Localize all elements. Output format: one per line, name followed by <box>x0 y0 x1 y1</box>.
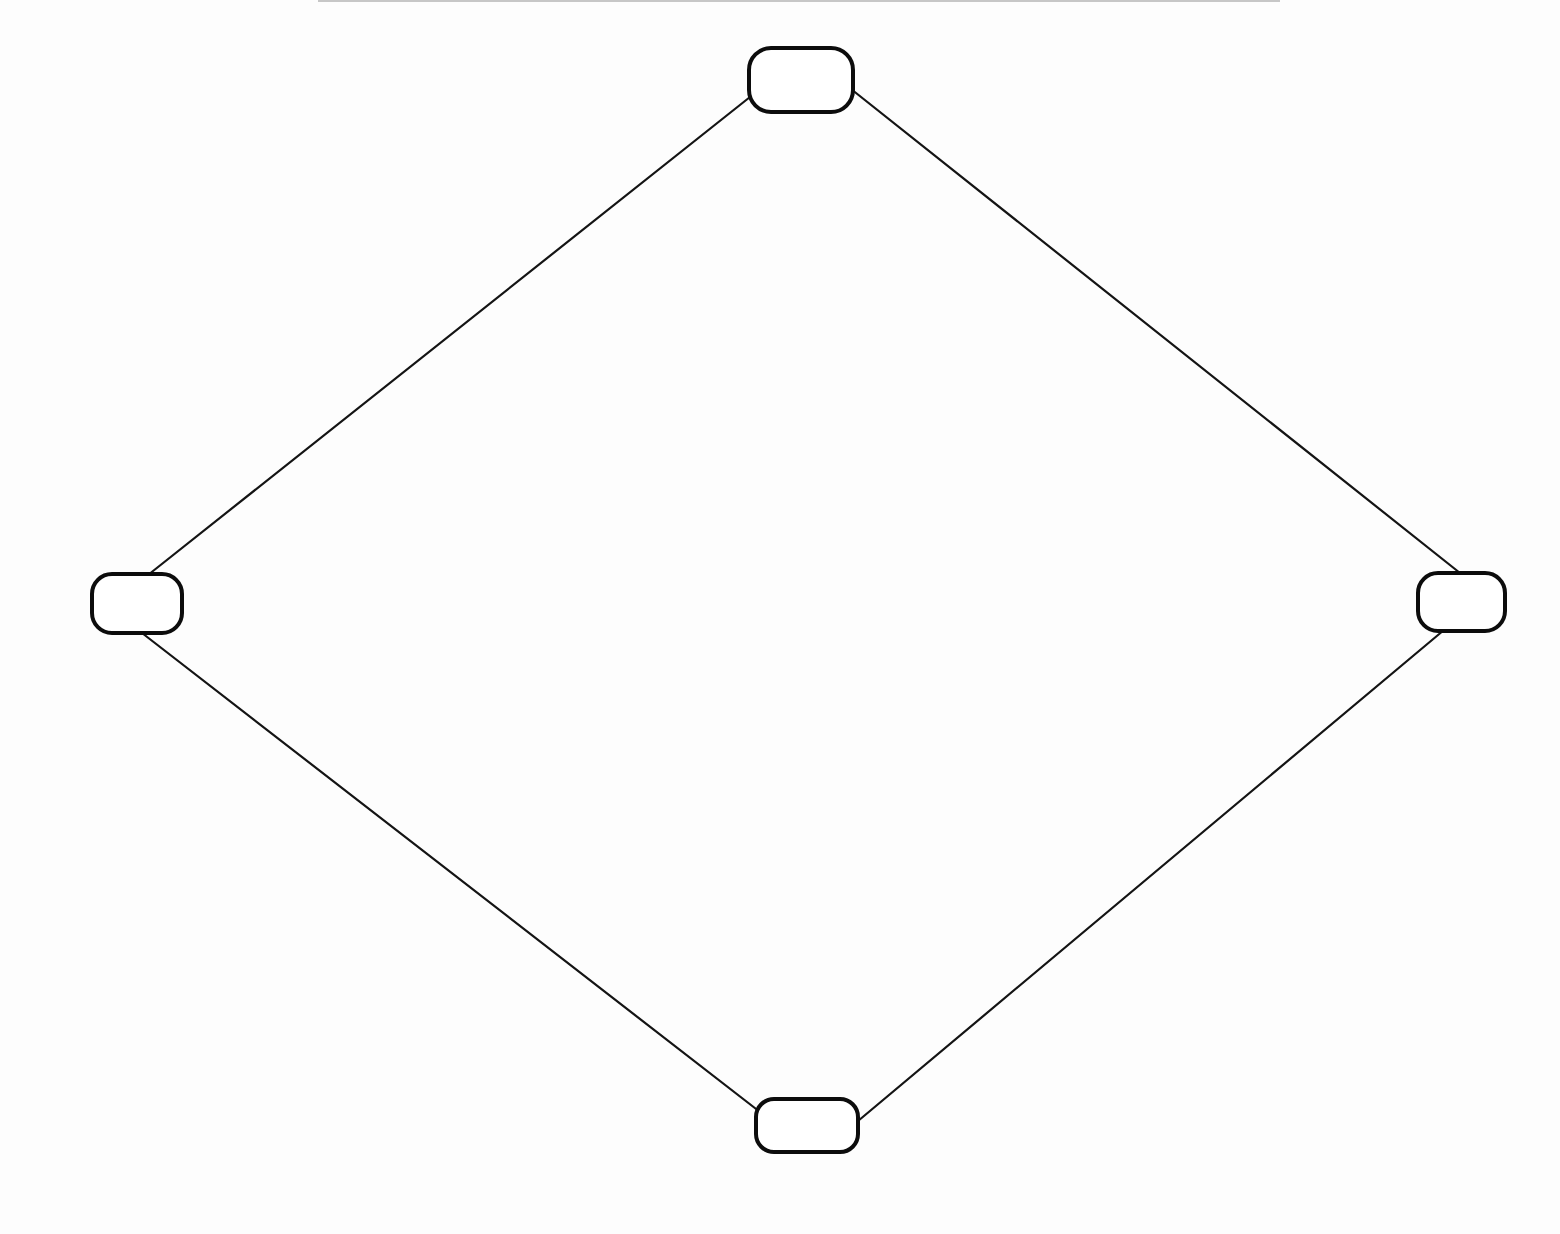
edge-top-left <box>148 97 750 575</box>
node-shape-top <box>749 48 853 112</box>
node-top <box>749 48 853 112</box>
edge-top-right <box>851 89 1460 573</box>
top-edge-rule <box>318 0 1280 2</box>
node-shape-bottom <box>756 1099 858 1152</box>
node-left <box>92 574 182 633</box>
node-bottom <box>756 1099 858 1152</box>
node-right <box>1418 573 1505 631</box>
diagram-canvas <box>0 0 1560 1234</box>
edge-right-bottom <box>858 630 1444 1121</box>
edges-layer <box>142 89 1460 1121</box>
nodes-layer <box>92 48 1505 1152</box>
node-shape-left <box>92 574 182 633</box>
edge-left-bottom <box>142 633 760 1112</box>
node-shape-right <box>1418 573 1505 631</box>
diagram-graph <box>0 0 1560 1234</box>
